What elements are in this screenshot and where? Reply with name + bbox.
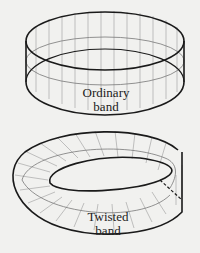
ordinary-band-bottom-back-edge xyxy=(26,49,184,82)
ordinary-band-label: Ordinary band xyxy=(78,86,134,114)
twisted-band-label-line1: Twisted xyxy=(80,210,136,224)
twisted-band-label: Twisted band xyxy=(80,210,136,238)
ordinary-band-label-line2: band xyxy=(78,100,134,114)
twisted-band-label-line2: band xyxy=(80,224,136,238)
ordinary-band-label-line1: Ordinary xyxy=(78,86,134,100)
twisted-band-inner-edge xyxy=(50,157,172,191)
twisted-band-hidden-edge xyxy=(160,180,182,200)
ordinary-band-top-edge xyxy=(26,12,184,70)
